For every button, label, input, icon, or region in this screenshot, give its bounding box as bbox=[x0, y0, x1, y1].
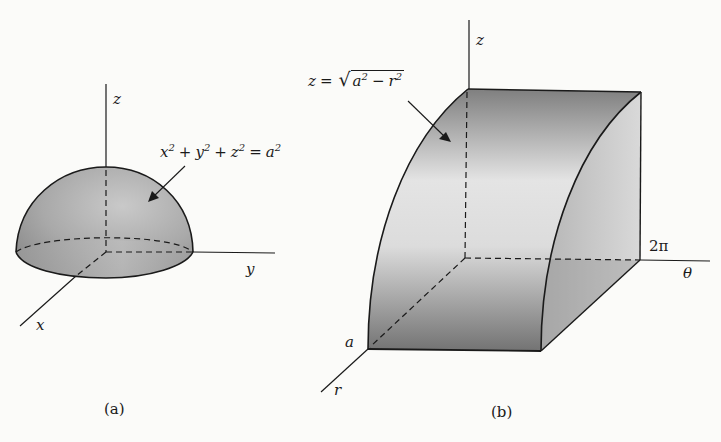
theta-max-label: 2π bbox=[649, 239, 668, 254]
y-axis-label-a: y bbox=[246, 262, 254, 277]
caption-b: (b) bbox=[491, 405, 512, 420]
x-axis-a bbox=[20, 276, 76, 326]
sphere-equation: x2+y2+z2=a2 bbox=[160, 143, 281, 160]
r-axis bbox=[321, 349, 368, 392]
z-axis-label-b: z bbox=[476, 33, 484, 48]
theta-axis bbox=[640, 260, 710, 261]
panel-a-graphics bbox=[16, 84, 275, 326]
theta-axis-label: θ bbox=[683, 266, 692, 281]
r-axis-label: r bbox=[334, 383, 341, 398]
y-axis-a bbox=[193, 252, 275, 253]
figure-graphics bbox=[0, 0, 721, 442]
figure: z y x x2+y2+z2=a2 (a) z θ r a 2π z=√a2−r… bbox=[0, 0, 721, 442]
z-axis-label-a: z bbox=[113, 92, 121, 107]
r-max-label: a bbox=[345, 335, 354, 350]
caption-a: (a) bbox=[104, 402, 125, 417]
surface-equation: z=√a2−r2 bbox=[308, 70, 404, 89]
x-axis-label-a: x bbox=[36, 318, 44, 333]
